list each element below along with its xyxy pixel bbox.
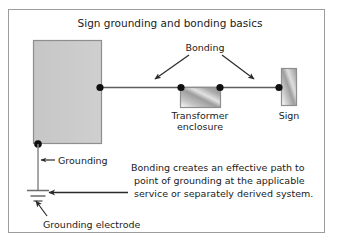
sign-label: Sign <box>279 110 300 121</box>
sign-grounding-diagram: Sign grounding and bonding basics Bondin… <box>0 0 341 249</box>
note-line-3: service or separately derived system. <box>134 188 313 199</box>
sign-box <box>282 69 297 106</box>
grounding-electrode-label: Grounding electrode <box>43 219 140 230</box>
bonding-arrow-left <box>155 55 189 79</box>
building-box <box>34 41 102 144</box>
node-sign-connection <box>275 84 282 91</box>
node-enclosure-right <box>216 84 223 91</box>
grounding-label: Grounding <box>58 155 108 166</box>
note-line-2: point of grounding at the applicable <box>134 175 305 186</box>
transformer-enclosure-label-line1: Transformer <box>170 110 228 121</box>
bonding-arrow-right <box>222 55 254 79</box>
diagram-title: Sign grounding and bonding basics <box>78 17 263 29</box>
bonding-label: Bonding <box>185 42 224 53</box>
node-enclosure-left <box>177 84 184 91</box>
note-line-1: Bonding creates an effective path to <box>131 162 305 173</box>
grounding-electrode-arrow <box>36 201 47 216</box>
transformer-enclosure-label-line2: enclosure <box>177 121 223 132</box>
transformer-enclosure-box <box>181 88 221 108</box>
node-building-connection <box>96 84 103 91</box>
figure-root: Sign grounding and bonding basics Bondin… <box>0 0 341 249</box>
